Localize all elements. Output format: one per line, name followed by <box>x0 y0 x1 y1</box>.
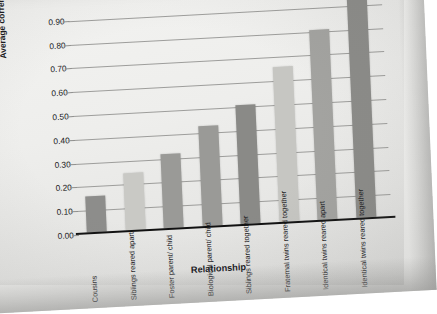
bar[interactable]: Cousins <box>85 196 107 233</box>
bar-series: CousinsSiblings reared apartFoster paren… <box>68 0 391 233</box>
y-axis-title: Average correlations between IQ scores <box>0 0 8 59</box>
bar[interactable]: Siblings reared together <box>236 104 261 224</box>
bar[interactable]: Foster parent/ child <box>161 154 184 229</box>
page-edge-right <box>397 0 437 291</box>
bar[interactable]: Identical twins reared apart <box>309 29 337 220</box>
y-axis-tick <box>72 235 79 236</box>
bar[interactable]: Biological parent/ child <box>198 125 222 226</box>
photographed-page: Average Average correlations between IQ … <box>0 0 437 314</box>
bar[interactable]: Identical twins reared together <box>346 0 376 218</box>
bar[interactable]: Siblings reared apart <box>123 172 145 230</box>
bar[interactable]: Fraternal twins reared together <box>273 66 300 222</box>
bar-chart: Average correlations between IQ scores 0… <box>32 0 392 263</box>
plot-area: CousinsSiblings reared apartFoster paren… <box>68 0 391 235</box>
y-axis-tick-labels: 0.000.100.200.300.400.500.600.700.800.90 <box>30 9 75 263</box>
